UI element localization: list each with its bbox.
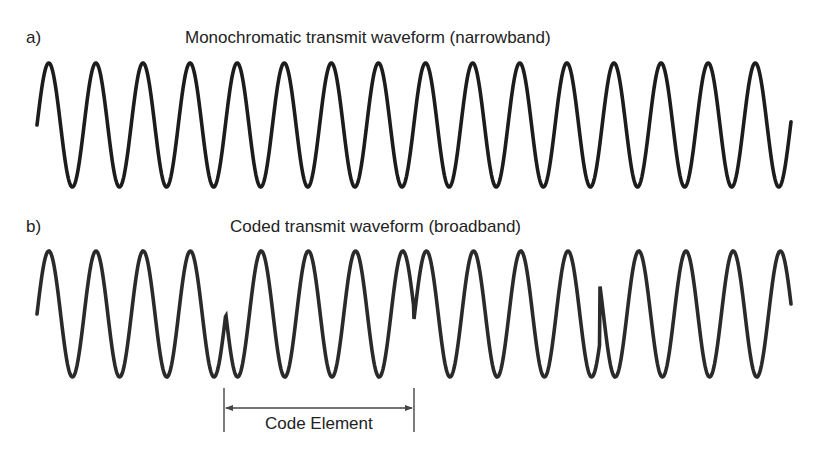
coded-waveform [37, 251, 791, 377]
code-element-label: Code Element [265, 414, 373, 434]
narrowband-waveform [37, 63, 791, 187]
waveform-figure [0, 0, 823, 465]
arrow-right-icon [405, 405, 413, 411]
arrow-left-icon [225, 405, 233, 411]
